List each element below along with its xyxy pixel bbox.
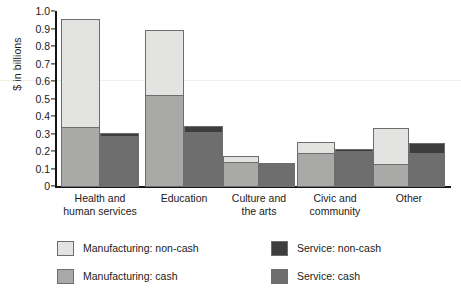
bar-segment-service-cash-0 xyxy=(100,133,139,187)
legend-swatch-icon xyxy=(57,269,74,284)
y-axis-title: $ in billions xyxy=(11,9,23,119)
stacked-bar-chart: $ in billions 00.10.20.30.40.50.60.70.80… xyxy=(0,0,461,303)
y-tick-mark xyxy=(51,133,55,134)
bar-segment-service-cash-3 xyxy=(335,149,373,188)
y-tick-mark xyxy=(51,150,55,151)
y-tick-label: 0.9 xyxy=(35,23,50,34)
segment-service-cash xyxy=(336,151,372,186)
y-tick-label: 1.0 xyxy=(35,6,50,17)
segment-service-cash xyxy=(260,164,294,187)
legend-label: Service: non-cash xyxy=(297,243,381,254)
y-tick-label: 0.7 xyxy=(35,58,50,69)
segment-manufacturing-cash xyxy=(146,95,183,186)
bar-segment-manufacturing-cash-1 xyxy=(145,30,184,188)
segment-manufacturing-cash xyxy=(298,153,334,186)
segment-manufacturing-cash xyxy=(374,164,408,187)
bar-segment-manufacturing-cash-2 xyxy=(223,156,259,188)
bar-segment-service-cash-1 xyxy=(184,126,223,187)
y-tick-mark xyxy=(51,98,55,99)
y-tick-label: 0.4 xyxy=(35,111,50,122)
legend-item: Manufacturing: non-cash xyxy=(57,241,199,256)
legend-label: Manufacturing: cash xyxy=(83,271,178,282)
y-tick-mark xyxy=(51,115,55,116)
bar-segment-service-cash-2 xyxy=(259,163,295,188)
y-tick-mark xyxy=(51,10,55,11)
y-tick-label: 0.3 xyxy=(35,128,50,139)
segment-manufacturing-cash xyxy=(224,162,258,186)
legend-item: Service: non-cash xyxy=(271,241,381,256)
y-tick-label: 0.1 xyxy=(35,163,50,174)
y-tick-mark xyxy=(51,28,55,29)
bar-segment-manufacturing-cash-0 xyxy=(61,19,100,187)
y-tick-mark xyxy=(51,80,55,81)
legend-swatch-icon xyxy=(271,241,288,256)
y-tick-mark xyxy=(51,45,55,46)
segment-service-cash xyxy=(185,132,222,186)
legend-label: Service: cash xyxy=(297,271,360,282)
y-tick-label: 0.8 xyxy=(35,41,50,52)
x-axis-label-4: Other xyxy=(354,192,461,205)
bar-segment-service-cash-4 xyxy=(409,143,445,187)
segment-manufacturing-noncash xyxy=(146,31,183,96)
y-tick-label: 0 xyxy=(44,181,50,192)
y-axis-line xyxy=(55,11,57,187)
segment-service-cash xyxy=(410,153,444,186)
chart-legend: Manufacturing: non-cashService: non-cash… xyxy=(57,241,447,291)
segment-manufacturing-noncash xyxy=(62,20,99,127)
segment-manufacturing-noncash xyxy=(298,143,334,154)
segment-service-noncash xyxy=(410,144,444,153)
legend-swatch-icon xyxy=(57,241,74,256)
segment-manufacturing-noncash xyxy=(374,129,408,164)
segment-service-cash xyxy=(101,136,138,187)
legend-swatch-icon xyxy=(271,269,288,284)
y-tick-label: 0.2 xyxy=(35,146,50,157)
legend-item: Service: cash xyxy=(271,269,360,284)
plot-area: 00.10.20.30.40.50.60.70.80.91.0 xyxy=(55,11,451,187)
y-tick-label: 0.5 xyxy=(35,93,50,104)
y-tick-mark xyxy=(51,63,55,64)
legend-label: Manufacturing: non-cash xyxy=(83,243,199,254)
bar-segment-manufacturing-cash-3 xyxy=(297,142,335,188)
y-tick-mark xyxy=(51,185,55,186)
y-tick-label: 0.6 xyxy=(35,76,50,87)
segment-manufacturing-cash xyxy=(62,127,99,186)
legend-item: Manufacturing: cash xyxy=(57,269,178,284)
y-tick-mark xyxy=(51,168,55,169)
bar-segment-manufacturing-cash-4 xyxy=(373,128,409,188)
